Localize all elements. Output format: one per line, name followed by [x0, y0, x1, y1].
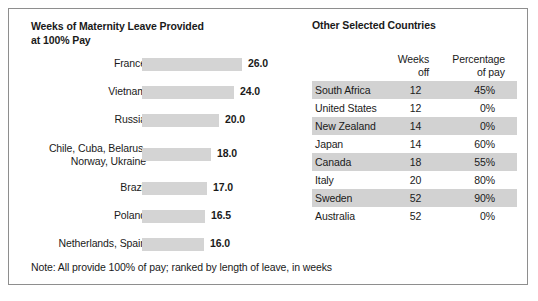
bar-row: Netherlands, Spain16.0	[9, 237, 267, 253]
table-cell-country: New Zealand	[312, 117, 385, 135]
bar-label: Netherlands, Spain	[0, 237, 146, 250]
table-cell-country: Australia	[312, 207, 385, 225]
table-cell-percentage-of-pay: 0%	[435, 117, 517, 135]
bar-value-label: 18.0	[217, 147, 237, 160]
bar-fill	[142, 238, 204, 251]
bar-track	[142, 86, 234, 99]
bar-fill	[142, 210, 205, 223]
table-panel: Other Selected Countries Weeks off Perce…	[267, 9, 529, 256]
bar-label: Vietnam	[0, 85, 146, 98]
table-cell-percentage-of-pay: 0%	[435, 99, 517, 117]
table-cell-weeks-off: 14	[385, 117, 435, 135]
bar-row: Chile, Cuba, Belarus, Norway, Ukraine18.…	[9, 141, 267, 169]
bar-label: Russia	[0, 113, 146, 126]
bar-label: Poland	[0, 209, 146, 222]
column-header-percentage-of-pay: Percentage of pay	[435, 49, 517, 81]
bar-row: Brazil17.0	[9, 181, 267, 197]
table-row: United States120%	[312, 99, 517, 117]
table-row: Canada1855%	[312, 153, 517, 171]
bar-track	[142, 58, 242, 71]
table-cell-percentage-of-pay: 60%	[435, 135, 517, 153]
table-cell-country: Canada	[312, 153, 385, 171]
table-body: South Africa1245%United States120%New Ze…	[312, 81, 517, 225]
table-cell-country: United States	[312, 99, 385, 117]
bar-value-label: 16.0	[210, 237, 230, 250]
bar-label: Brazil	[0, 181, 146, 194]
bar-row: Vietnam24.0	[9, 85, 267, 101]
column-header-country	[312, 49, 385, 81]
table-row: New Zealand140%	[312, 117, 517, 135]
table-cell-weeks-off: 18	[385, 153, 435, 171]
table-cell-weeks-off: 20	[385, 171, 435, 189]
bar-label: France	[0, 57, 146, 70]
bar-chart-panel: Weeks of Maternity Leave Provided at 100…	[9, 9, 267, 256]
table-header: Weeks off Percentage of pay	[312, 49, 517, 81]
table-title: Other Selected Countries	[312, 19, 436, 31]
table-cell-weeks-off: 12	[385, 81, 435, 99]
table-cell-weeks-off: 12	[385, 99, 435, 117]
table-row: Sweden5290%	[312, 189, 517, 207]
table-cell-percentage-of-pay: 45%	[435, 81, 517, 99]
bar-row: France26.0	[9, 57, 267, 73]
bar-row: Russia20.0	[9, 113, 267, 129]
bar-fill	[142, 86, 234, 99]
table-cell-country: Japan	[312, 135, 385, 153]
bar-fill	[142, 182, 207, 195]
bar-chart-title-line1: Weeks of Maternity Leave Provided	[31, 20, 204, 32]
table-cell-weeks-off: 52	[385, 207, 435, 225]
table-cell-percentage-of-pay: 90%	[435, 189, 517, 207]
bar-row: Poland16.5	[9, 209, 267, 225]
bar-chart-title: Weeks of Maternity Leave Provided at 100…	[31, 19, 261, 47]
table-cell-percentage-of-pay: 80%	[435, 171, 517, 189]
table-header-row: Weeks off Percentage of pay	[312, 49, 517, 81]
table-cell-country: Sweden	[312, 189, 385, 207]
figure-note: Note: All provide 100% of pay; ranked by…	[31, 261, 332, 273]
bar-fill	[142, 58, 242, 71]
bar-track	[142, 114, 219, 127]
bar-value-label: 16.5	[211, 209, 231, 222]
bar-chart-rows: France26.0Vietnam24.0Russia20.0Chile, Cu…	[9, 57, 267, 265]
column-header-pct-line2: of pay	[435, 66, 505, 79]
bar-track	[142, 210, 205, 223]
bar-value-label: 17.0	[213, 181, 233, 194]
bar-fill	[142, 148, 211, 161]
bar-track	[142, 148, 211, 161]
bar-track	[142, 182, 207, 195]
table-cell-country: South Africa	[312, 81, 385, 99]
table-cell-percentage-of-pay: 0%	[435, 207, 517, 225]
bar-value-label: 20.0	[225, 113, 245, 126]
table-row: South Africa1245%	[312, 81, 517, 99]
bar-value-label: 26.0	[248, 57, 268, 70]
table-cell-weeks-off: 14	[385, 135, 435, 153]
column-header-weeks-line2: off	[385, 66, 429, 79]
table-cell-country: Italy	[312, 171, 385, 189]
table-cell-weeks-off: 52	[385, 189, 435, 207]
bar-label: Chile, Cuba, Belarus, Norway, Ukraine	[0, 142, 146, 168]
bar-fill	[142, 114, 219, 127]
table-row: Australia520%	[312, 207, 517, 225]
figure-frame: Weeks of Maternity Leave Provided at 100…	[8, 8, 528, 285]
column-header-weeks-line1: Weeks	[385, 53, 429, 66]
bar-track	[142, 238, 204, 251]
table-row: Japan1460%	[312, 135, 517, 153]
countries-table: Weeks off Percentage of pay South Africa…	[312, 49, 517, 225]
table-cell-percentage-of-pay: 55%	[435, 153, 517, 171]
column-header-pct-line1: Percentage	[435, 53, 505, 66]
column-header-weeks-off: Weeks off	[385, 49, 435, 81]
bar-chart-title-line2: at 100% Pay	[31, 34, 91, 46]
table-row: Italy2080%	[312, 171, 517, 189]
bar-value-label: 24.0	[240, 85, 260, 98]
